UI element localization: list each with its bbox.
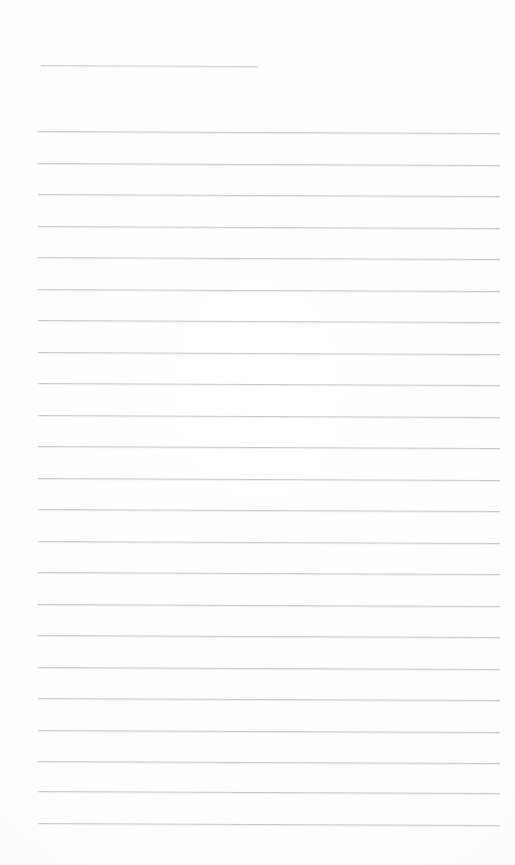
body-rule-17 (38, 635, 500, 638)
body-rule-21 (38, 761, 500, 764)
header-rule (41, 65, 258, 67)
body-rule-9 (38, 383, 500, 386)
body-rule-5 (38, 257, 500, 260)
body-rule-7 (38, 320, 500, 323)
body-rule-3 (38, 194, 500, 197)
body-rule-13 (38, 509, 500, 512)
body-rule-8 (38, 352, 500, 355)
body-rule-2 (38, 163, 500, 166)
body-rule-12 (38, 478, 500, 481)
scanned-page (0, 0, 515, 865)
body-rule-20 (38, 730, 500, 733)
body-rule-23 (38, 823, 500, 826)
paper-texture (0, 0, 515, 865)
body-rule-22 (38, 791, 500, 794)
body-rule-14 (38, 541, 500, 544)
body-rule-16 (38, 604, 500, 607)
body-rule-10 (38, 415, 500, 418)
body-rule-1 (38, 131, 500, 134)
body-rule-4 (38, 226, 500, 229)
body-rule-15 (38, 572, 500, 575)
body-rule-6 (38, 289, 500, 292)
body-rule-11 (38, 446, 500, 449)
body-rule-19 (38, 698, 500, 701)
body-rule-18 (38, 667, 500, 670)
